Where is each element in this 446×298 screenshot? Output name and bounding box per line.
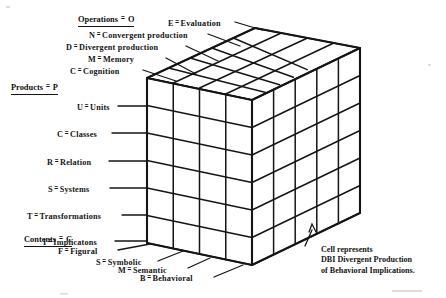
content-label-behavioral: B=Behavioral xyxy=(140,272,193,284)
product-label-systems: S=Systems xyxy=(48,183,89,195)
cube-left-face xyxy=(147,78,252,265)
product-label-classes: C=Classes xyxy=(57,128,97,140)
product-label-transformations: T=Transformations xyxy=(27,210,101,222)
callout-line-2: DBI Divergent Production xyxy=(321,255,415,265)
soi-figure: Operations=O Products=P Contents=C E=Eva… xyxy=(0,0,446,298)
cell-callout-text: Cell represents DBI Divergent Production… xyxy=(321,245,415,276)
operation-label-convergent-production: N=Convergent production xyxy=(89,29,188,41)
leader-lines-products xyxy=(109,106,147,241)
header-operations: Operations=O xyxy=(78,13,134,27)
callout-line-1: Cell represents xyxy=(321,245,415,255)
operation-label-divergent-production: D=Divergent production xyxy=(66,41,158,53)
operation-label-memory: M=Memory xyxy=(88,53,134,65)
content-label-figural: F=Figural xyxy=(58,245,97,257)
callout-line-3: of Behavioral Implications. xyxy=(321,266,415,276)
product-label-relation: R=Relation xyxy=(47,156,91,168)
header-products: Products=P xyxy=(11,81,58,95)
operation-label-evaluation: E=Evaluation xyxy=(168,17,221,29)
operation-label-cognition: C=Cognition xyxy=(70,65,119,77)
product-label-units: U=Units xyxy=(77,101,110,113)
